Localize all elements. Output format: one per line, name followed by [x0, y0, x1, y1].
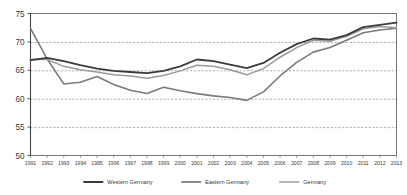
series-line-western-germany	[31, 23, 397, 74]
data-series-group	[31, 23, 397, 101]
x-tick-label-2007: 2007	[291, 160, 302, 166]
y-tick-label-60: 60	[15, 95, 25, 104]
gridlines-group	[31, 42, 397, 127]
x-tick-label-2003: 2003	[224, 160, 235, 166]
y-tick-label-50: 50	[15, 152, 25, 161]
x-tick-label-2012: 2012	[374, 160, 385, 166]
y-axis-tick-labels: 505560657075	[15, 10, 25, 161]
x-tick-label-1995: 1995	[91, 160, 102, 166]
x-tick-label-2000: 2000	[175, 160, 186, 166]
series-line-eastern-germany	[31, 28, 397, 100]
x-tick-label-1997: 1997	[125, 160, 136, 166]
x-axis-tick-labels: 1991199219931994199519961997199819992000…	[25, 160, 402, 166]
y-tick-label-70: 70	[15, 38, 25, 47]
x-tick-label-1999: 1999	[158, 160, 169, 166]
x-tick-label-1992: 1992	[41, 160, 52, 166]
legend-label-western-germany: Western Germany	[107, 179, 152, 185]
axes-group	[28, 14, 397, 159]
x-tick-label-1996: 1996	[108, 160, 119, 166]
x-tick-label-1993: 1993	[58, 160, 69, 166]
y-tick-label-55: 55	[15, 123, 25, 132]
line-chart: 505560657075 199119921993199419951996199…	[0, 0, 407, 195]
x-tick-label-2009: 2009	[324, 160, 335, 166]
x-tick-label-2013: 2013	[391, 160, 402, 166]
x-tick-label-2008: 2008	[308, 160, 319, 166]
y-tick-label-75: 75	[15, 10, 25, 19]
chart-legend: Western GermanyEastern GermanyGermany	[83, 179, 326, 185]
x-tick-label-2010: 2010	[341, 160, 352, 166]
y-tick-label-65: 65	[15, 66, 25, 75]
x-tick-label-2001: 2001	[191, 160, 202, 166]
x-tick-label-2005: 2005	[258, 160, 269, 166]
chart-canvas: 505560657075 199119921993199419951996199…	[0, 0, 407, 195]
x-tick-label-1994: 1994	[75, 160, 86, 166]
legend-label-germany: Germany	[303, 179, 326, 185]
x-tick-label-1998: 1998	[141, 160, 152, 166]
x-tick-label-2006: 2006	[274, 160, 285, 166]
x-tick-label-1991: 1991	[25, 160, 36, 166]
x-tick-label-2011: 2011	[358, 160, 369, 166]
legend-label-eastern-germany: Eastern Germany	[205, 179, 249, 185]
plot-frame	[31, 14, 397, 156]
x-tick-label-2002: 2002	[208, 160, 219, 166]
x-tick-label-2004: 2004	[241, 160, 252, 166]
